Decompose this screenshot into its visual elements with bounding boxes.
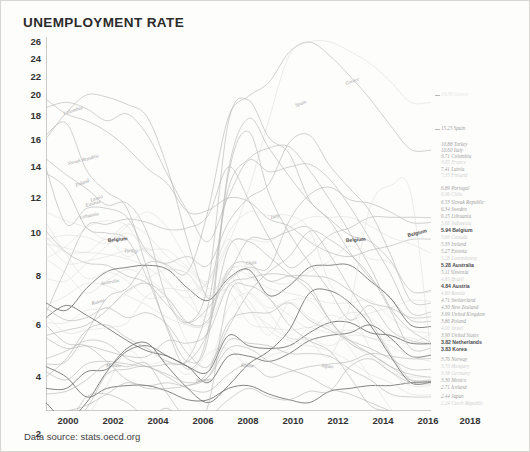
end-label-new-zealand: 4.30 New Zealand xyxy=(441,305,478,310)
end-label-russia: 4.60 Russia xyxy=(441,291,465,296)
page-title: UNEMPLOYMENT RATE xyxy=(23,15,184,30)
end-label-germany: 3.38 Germany xyxy=(441,371,470,376)
leader-line xyxy=(435,129,440,130)
line-chart-svg: ColombiaPolandSlovak RepublicEstoniaLith… xyxy=(46,37,431,411)
series-line-france xyxy=(46,217,431,282)
end-label-mexico: 3.30 Mexico xyxy=(441,378,466,383)
end-label-finland: 7.35 Finland xyxy=(441,173,467,178)
y-tick-26: 26 xyxy=(19,36,41,47)
chart-page: UNEMPLOYMENT RATE 2624222018161412108642… xyxy=(0,0,530,452)
series-line-austria xyxy=(46,325,431,390)
inline-series-labels: ColombiaPolandSlovak RepublicEstoniaLith… xyxy=(63,76,428,383)
x-tick-2002: 2002 xyxy=(93,415,133,426)
end-label-chile: 6.96 Chile xyxy=(441,192,462,197)
inline-label-japan: Japan xyxy=(321,363,334,369)
end-label-slovenia: 5.11 Slovenia xyxy=(441,270,468,275)
x-tick-2008: 2008 xyxy=(228,415,268,426)
inline-label-turkey: Turkey xyxy=(124,248,139,254)
inline-label-lithuania: Lithuania xyxy=(78,211,100,220)
end-label-switzerland: 4.71 Switzerland xyxy=(441,298,475,303)
inline-label-chile: Chile xyxy=(246,260,258,266)
x-tick-2014: 2014 xyxy=(363,415,403,426)
y-tick-8: 8 xyxy=(19,270,41,281)
inline-label-belgium: Belgium xyxy=(346,236,367,243)
y-tick-16: 16 xyxy=(19,134,41,145)
y-tick-10: 10 xyxy=(19,227,41,238)
series-line-korea xyxy=(46,367,431,403)
x-tick-2004: 2004 xyxy=(138,415,178,426)
end-label-estonia: 5.27 Estonia xyxy=(441,249,467,254)
series-line-new-zealand xyxy=(46,303,431,386)
end-label-norway: 3.76 Norway xyxy=(441,357,467,362)
end-labels-column: 19.30 Greece15.25 Spain10.88 Turkey10.60… xyxy=(435,37,530,417)
end-label-poland: 3.86 Poland xyxy=(441,319,466,324)
inline-label-mexico: Mexico xyxy=(105,363,121,368)
series-lines xyxy=(46,41,431,411)
end-label-ireland: 5.33 Ireland xyxy=(441,242,466,247)
end-label-iceland: 2.71 Iceland xyxy=(441,385,466,390)
end-label-australia: 5.28 Australia xyxy=(441,263,474,268)
y-tick-22: 22 xyxy=(19,71,41,82)
end-label-japan: 2.44 Japan xyxy=(441,394,464,399)
end-label-brazil: 4.85 Brazil xyxy=(441,277,464,282)
data-source-caption: Data source: stats.oecd.org xyxy=(24,431,140,442)
x-tick-2010: 2010 xyxy=(273,415,313,426)
y-tick-4: 4 xyxy=(19,371,41,382)
inline-label-belgium: Belgium xyxy=(107,235,128,243)
end-label-belgium: 5.94 Belgium xyxy=(441,228,472,233)
end-label-united-kingdom: 3.99 United Kingdom xyxy=(441,312,485,317)
end-label-netherlands: 3.82 Netherlands xyxy=(441,340,482,345)
end-label-lithuania: 6.15 Lithuania xyxy=(441,214,471,219)
inline-label-spain: Spain xyxy=(295,99,308,108)
inline-label-korea: Korea xyxy=(240,363,254,368)
y-tick-14: 14 xyxy=(19,161,41,172)
end-label-spain: 15.25 Spain xyxy=(441,126,465,131)
end-label-israel: 4.00 Israel xyxy=(441,326,463,331)
inline-label-italy: Italy xyxy=(269,213,281,220)
inline-label-russia: Russia xyxy=(90,297,106,306)
inline-label-greece: Greece xyxy=(345,76,361,86)
end-label-united-states: 3.90 United States xyxy=(441,333,479,338)
end-label-luxembourg: 5.28 Luxembourg xyxy=(441,256,477,261)
end-label-hungary: 3.70 Hungary xyxy=(441,364,469,369)
inline-label-colombia: Colombia xyxy=(63,105,84,116)
end-label-korea: 3.83 Korea xyxy=(441,347,467,352)
end-label-canada: 5.69 Canada xyxy=(441,235,467,240)
inline-label-australia: Australia xyxy=(99,278,120,286)
leader-line xyxy=(435,95,440,96)
series-line-greece xyxy=(46,41,431,285)
end-label-austria: 4.84 Austria xyxy=(441,284,470,289)
series-line-norway xyxy=(46,359,431,411)
end-label-sweden: 6.34 Sweden xyxy=(441,207,467,212)
x-tick-2012: 2012 xyxy=(318,415,358,426)
y-tick-20: 20 xyxy=(19,89,41,100)
end-label-france: 9.05 France xyxy=(441,160,466,165)
y-tick-6: 6 xyxy=(19,319,41,330)
series-line-ireland xyxy=(46,145,431,380)
end-label-greece: 19.30 Greece xyxy=(441,92,468,97)
y-tick-12: 12 xyxy=(19,192,41,203)
series-line-latvia xyxy=(46,98,431,323)
y-tick-24: 24 xyxy=(19,53,41,64)
y-tick-18: 18 xyxy=(19,110,41,121)
end-label-slovak-republic: 6.53 Slovak Republic xyxy=(441,200,484,205)
end-label-czech-republic: 2.24 Czech Republic xyxy=(441,401,483,406)
inline-label-poland: Poland xyxy=(74,178,91,189)
x-tick-2000: 2000 xyxy=(48,415,88,426)
plot-area: ColombiaPolandSlovak RepublicEstoniaLith… xyxy=(46,37,431,411)
x-tick-2006: 2006 xyxy=(183,415,223,426)
end-label-indonesia: 5.66 Indonesia xyxy=(441,221,471,226)
